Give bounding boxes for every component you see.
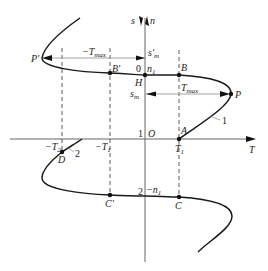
neg-tmax-label: −Tmax [82,46,107,59]
sm-prime-arrow-icon [136,56,145,61]
point-D-label: D [57,154,66,165]
torque-axis-label: T [249,144,256,155]
point-C-prime-label: C′ [105,198,115,209]
torque-axis-arrow-icon [246,136,256,142]
p-arrow-icon [220,91,230,97]
curve-2-leader [68,148,74,152]
t1-label: T1 [175,143,184,156]
neg-t2-label: −T2 [45,141,61,154]
level-one-label: 1 [138,128,143,139]
s-axis-arrow-icon [139,16,143,26]
H-label: H [134,77,143,88]
point-P-prime-label: P′ [30,53,40,64]
neg-t1-label: −T1 [95,141,111,154]
sm-prime-label: s′m [148,47,159,60]
s-axis-label: s [131,15,135,26]
point-C-label: C [175,200,182,211]
curve-1-leader [210,116,220,120]
level-zero-label: 0 [136,63,141,74]
point-B-prime-label: B′ [112,63,121,74]
speed-torque-diagram: s n T O 0 1 2 n1 −n1 H sm s′m Tmax −Tmax… [0,0,268,271]
point-C [177,195,181,199]
point-C-prime [108,193,112,197]
sm-arrow-icon [146,92,156,97]
n-axis-arrow-icon [145,16,149,26]
neg-n1-label: −n1 [146,184,161,197]
curve-2 [42,139,232,252]
n1-label: n1 [147,63,156,76]
point-B-label: B [181,62,187,73]
point-P [229,92,233,96]
origin-label: O [148,128,155,139]
point-B [177,73,181,77]
tmax-label: Tmax [181,82,199,95]
curve-1-label: 1 [222,115,227,126]
level-two-label: 2 [138,186,143,197]
p-prime-arrow-icon [42,55,52,61]
point-A [177,137,181,141]
curve-2-label: 2 [75,148,80,159]
n-axis-label: n [150,15,155,26]
sm-label: sm [130,88,139,101]
point-A-label: A [180,125,188,136]
point-P-label: P [234,89,241,100]
